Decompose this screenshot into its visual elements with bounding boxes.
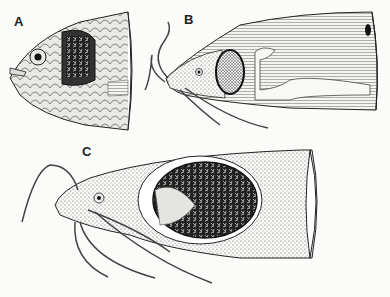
panel-c (22, 150, 317, 283)
panel-a (10, 12, 132, 130)
panel-label-a: A (14, 14, 23, 29)
anatomy-illustration (0, 0, 390, 297)
panel-label-c: C (82, 144, 91, 159)
panel-label-b: B (184, 12, 193, 27)
panel-b (145, 12, 377, 128)
